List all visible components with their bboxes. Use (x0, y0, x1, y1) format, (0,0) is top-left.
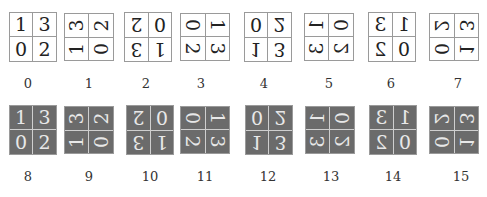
cell-tl: 1 (454, 130, 478, 153)
cell-tr: 3 (370, 106, 393, 130)
grid-label: 11 (185, 169, 225, 184)
cell-tl: 1 (148, 37, 171, 61)
digit-grid: 1 3 0 2 (304, 13, 354, 61)
cell-tl: 1 (65, 130, 89, 153)
cell-tl: 1 (246, 130, 269, 154)
grid-5: 1 3 0 2 (305, 12, 353, 62)
grid-label: 4 (244, 76, 284, 91)
cell-br: 2 (269, 106, 292, 130)
cell-tr: 3 (33, 13, 56, 37)
grid-4: 1 3 0 2 (244, 12, 292, 62)
digit-grid: 1 3 0 2 (245, 105, 293, 155)
cell-tl: 1 (205, 14, 229, 37)
cell-tl: 1 (10, 106, 33, 130)
digit-grid: 1 3 0 2 (9, 12, 57, 62)
digit-grid: 1 3 0 2 (180, 13, 230, 61)
digit-grid: 1 3 0 2 (368, 12, 416, 62)
grid-label: 12 (248, 169, 288, 184)
cell-tr: 3 (65, 14, 89, 37)
grid-label: 14 (373, 169, 413, 184)
digit-grid: 1 3 0 2 (429, 106, 479, 154)
cell-tr: 3 (369, 13, 392, 37)
cell-bl: 0 (89, 37, 113, 60)
grid-12: 1 3 0 2 (245, 105, 293, 155)
grid-0: 1 3 0 2 (9, 12, 57, 62)
cell-bl: 0 (150, 106, 173, 130)
grid-label: 5 (309, 76, 349, 91)
grid-9: 1 3 0 2 (65, 105, 113, 155)
grid-3: 1 3 0 2 (181, 12, 229, 62)
cell-bl: 0 (430, 37, 454, 60)
cell-tr: 3 (269, 130, 292, 154)
cell-tr: 3 (205, 130, 229, 153)
grid-8: 1 3 0 2 (9, 105, 57, 155)
grid-label: 0 (8, 76, 48, 91)
cell-tr: 3 (125, 37, 148, 61)
cell-tl: 1 (393, 106, 416, 130)
grid-2: 1 3 0 2 (124, 12, 172, 62)
cell-tl: 1 (150, 130, 173, 154)
grid-label: 9 (69, 169, 109, 184)
grid-label: 2 (126, 76, 166, 91)
digit-grid: 1 3 0 2 (244, 12, 292, 62)
grid-label: 13 (311, 169, 351, 184)
grid-6: 1 3 0 2 (368, 12, 416, 62)
cell-br: 2 (127, 106, 150, 130)
cell-br: 2 (33, 37, 56, 61)
grid-label: 10 (130, 169, 170, 184)
cell-br: 2 (125, 13, 148, 37)
cell-bl: 0 (10, 37, 33, 61)
cell-br: 2 (430, 107, 454, 130)
digit-grid: 1 3 0 2 (64, 13, 114, 61)
cell-tl: 1 (205, 107, 229, 130)
cell-br: 2 (430, 14, 454, 37)
grid-label: 15 (441, 169, 481, 184)
cell-bl: 0 (430, 130, 454, 153)
cell-tl: 1 (454, 37, 478, 60)
cell-tr: 3 (127, 130, 150, 154)
digit-grid: 1 3 0 2 (369, 105, 417, 155)
grid-11: 1 3 0 2 (181, 105, 229, 155)
grid-label: 6 (371, 76, 411, 91)
cell-br: 2 (181, 37, 205, 60)
cell-br: 2 (329, 37, 353, 60)
cell-bl: 0 (246, 106, 269, 130)
cell-tr: 3 (268, 37, 291, 61)
grid-14: 1 3 0 2 (369, 105, 417, 155)
grid-15: 1 3 0 2 (430, 105, 478, 155)
cell-br: 2 (268, 13, 291, 37)
digit-grid: 1 3 0 2 (9, 105, 57, 155)
cell-tr: 3 (305, 37, 329, 60)
cell-bl: 0 (10, 130, 33, 154)
cell-br: 2 (89, 107, 113, 130)
cell-tr: 3 (205, 37, 229, 60)
cell-tl: 1 (305, 14, 329, 37)
cell-tr: 3 (306, 130, 330, 153)
cell-br: 2 (89, 14, 113, 37)
grid-label: 1 (69, 76, 109, 91)
digit-grid: 1 3 0 2 (126, 105, 174, 155)
cell-br: 2 (33, 130, 56, 154)
cell-tl: 1 (65, 37, 89, 60)
cell-bl: 0 (181, 14, 205, 37)
cell-bl: 0 (392, 37, 415, 61)
cell-bl: 0 (393, 130, 416, 154)
cell-bl: 0 (181, 107, 205, 130)
cell-tr: 3 (454, 14, 478, 37)
digit-grid: 1 3 0 2 (64, 106, 114, 154)
cell-tr: 3 (454, 107, 478, 130)
cell-tr: 3 (65, 107, 89, 130)
cell-bl: 0 (89, 130, 113, 153)
cell-tl: 1 (10, 13, 33, 37)
cell-bl: 0 (329, 14, 353, 37)
cell-bl: 0 (330, 107, 354, 130)
grid-13: 1 3 0 2 (306, 105, 354, 155)
grid-7: 1 3 0 2 (430, 12, 478, 62)
grid-label: 8 (8, 169, 48, 184)
cell-br: 2 (181, 130, 205, 153)
cell-br: 2 (330, 130, 354, 153)
cell-bl: 0 (245, 13, 268, 37)
grid-label: 7 (438, 76, 478, 91)
cell-br: 2 (369, 37, 392, 61)
digit-grid: 1 3 0 2 (124, 12, 172, 62)
